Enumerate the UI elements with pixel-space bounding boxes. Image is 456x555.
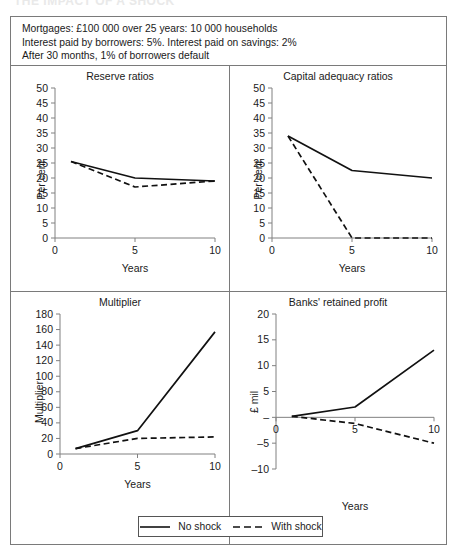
- svg-text:5: 5: [259, 217, 265, 229]
- assumptions-line-2: Interest paid by borrowers: 5%. Interest…: [22, 36, 446, 50]
- svg-text:10: 10: [426, 244, 438, 256]
- svg-text:10: 10: [428, 423, 440, 435]
- svg-text:0: 0: [269, 244, 275, 256]
- legend-label-no-shock: No shock: [178, 521, 221, 532]
- svg-text:–10: –10: [251, 463, 269, 475]
- svg-text:30: 30: [253, 142, 265, 154]
- svg-text:–: –: [263, 411, 269, 423]
- svg-text:35: 35: [253, 127, 265, 139]
- svg-text:40: 40: [36, 112, 48, 124]
- svg-text:40: 40: [253, 112, 265, 124]
- x-axis-label-capital-adequacy-ratios: Years: [272, 262, 432, 274]
- legend-label-with-shock: With shock: [271, 521, 321, 532]
- svg-text:45: 45: [36, 97, 48, 109]
- assumptions-line-1: Mortgages: £100 000 over 25 years: 10 00…: [22, 22, 446, 36]
- svg-text:5: 5: [263, 385, 269, 397]
- chart-panel-banks-retained-profit: Banks' retained profit £ mil –10–5–51015…: [230, 292, 446, 545]
- svg-text:20: 20: [253, 172, 265, 184]
- chart-panel-reserve-ratios: Reserve ratios Per cent 0510152025303540…: [11, 66, 229, 291]
- assumptions-note: Mortgages: £100 000 over 25 years: 10 00…: [11, 17, 446, 66]
- figure-legend: No shock With shock: [138, 516, 323, 537]
- svg-text:20: 20: [41, 432, 53, 444]
- svg-text:140: 140: [35, 339, 53, 351]
- svg-text:5: 5: [352, 423, 358, 435]
- svg-text:5: 5: [42, 217, 48, 229]
- svg-text:0: 0: [57, 460, 63, 472]
- x-axis-label-reserve-ratios: Years: [55, 262, 215, 274]
- y-axis-label-banks-retained-profit: £ mil: [248, 367, 260, 437]
- svg-text:40: 40: [41, 416, 53, 428]
- svg-text:15: 15: [257, 333, 269, 345]
- svg-text:–5: –5: [257, 437, 269, 449]
- svg-text:100: 100: [35, 370, 53, 382]
- svg-text:0: 0: [273, 423, 279, 435]
- svg-text:10: 10: [253, 202, 265, 214]
- figure-frame: Mortgages: £100 000 over 25 years: 10 00…: [10, 16, 447, 545]
- x-axis-label-banks-retained-profit: Years: [276, 500, 434, 512]
- charts-grid: Reserve ratios Per cent 0510152025303540…: [11, 66, 446, 544]
- svg-text:25: 25: [253, 157, 265, 169]
- svg-text:0: 0: [259, 232, 265, 244]
- svg-text:35: 35: [36, 127, 48, 139]
- plot-area-capital-adequacy-ratios: 051015202530354045500510: [272, 88, 432, 238]
- chart-title-multiplier: Multiplier: [11, 296, 229, 308]
- chart-panel-multiplier: Multiplier Multiplier 020406080100120140…: [11, 292, 229, 545]
- svg-text:60: 60: [41, 401, 53, 413]
- cropped-page-title: THE IMPACT OF A SHOCK: [14, 0, 444, 8]
- chart-panel-capital-adequacy-ratios: Capital adequacy ratios Per cent 0510152…: [230, 66, 446, 291]
- svg-text:15: 15: [253, 187, 265, 199]
- svg-text:10: 10: [209, 460, 221, 472]
- svg-text:10: 10: [257, 359, 269, 371]
- svg-text:0: 0: [52, 244, 58, 256]
- svg-text:120: 120: [35, 354, 53, 366]
- plot-area-banks-retained-profit: –10–5–51015200510: [276, 314, 434, 469]
- svg-text:45: 45: [253, 97, 265, 109]
- legend-swatch-no-shock: [139, 522, 171, 532]
- plot-area-multiplier: 0204060801001201401601800510: [60, 314, 215, 454]
- svg-text:180: 180: [35, 308, 53, 320]
- chart-title-reserve-ratios: Reserve ratios: [11, 70, 229, 82]
- svg-text:20: 20: [257, 308, 269, 320]
- assumptions-line-3: After 30 months, 1% of borrowers default: [22, 49, 446, 63]
- svg-text:5: 5: [135, 460, 141, 472]
- svg-text:10: 10: [209, 244, 221, 256]
- x-axis-label-multiplier: Years: [60, 478, 215, 490]
- chart-title-banks-retained-profit: Banks' retained profit: [230, 296, 446, 308]
- svg-text:5: 5: [132, 244, 138, 256]
- svg-text:20: 20: [36, 172, 48, 184]
- svg-text:160: 160: [35, 323, 53, 335]
- legend-swatch-with-shock: [232, 522, 264, 532]
- svg-text:0: 0: [42, 232, 48, 244]
- chart-title-capital-adequacy-ratios: Capital adequacy ratios: [230, 70, 446, 82]
- plot-area-reserve-ratios: 051015202530354045500510: [55, 88, 215, 238]
- svg-text:50: 50: [36, 82, 48, 94]
- svg-text:15: 15: [36, 187, 48, 199]
- svg-text:5: 5: [349, 244, 355, 256]
- svg-text:30: 30: [36, 142, 48, 154]
- svg-text:10: 10: [36, 202, 48, 214]
- svg-text:25: 25: [36, 157, 48, 169]
- svg-text:0: 0: [47, 448, 53, 460]
- svg-text:50: 50: [253, 82, 265, 94]
- svg-text:80: 80: [41, 385, 53, 397]
- figure-page: THE IMPACT OF A SHOCK Mortgages: £100 00…: [0, 0, 456, 555]
